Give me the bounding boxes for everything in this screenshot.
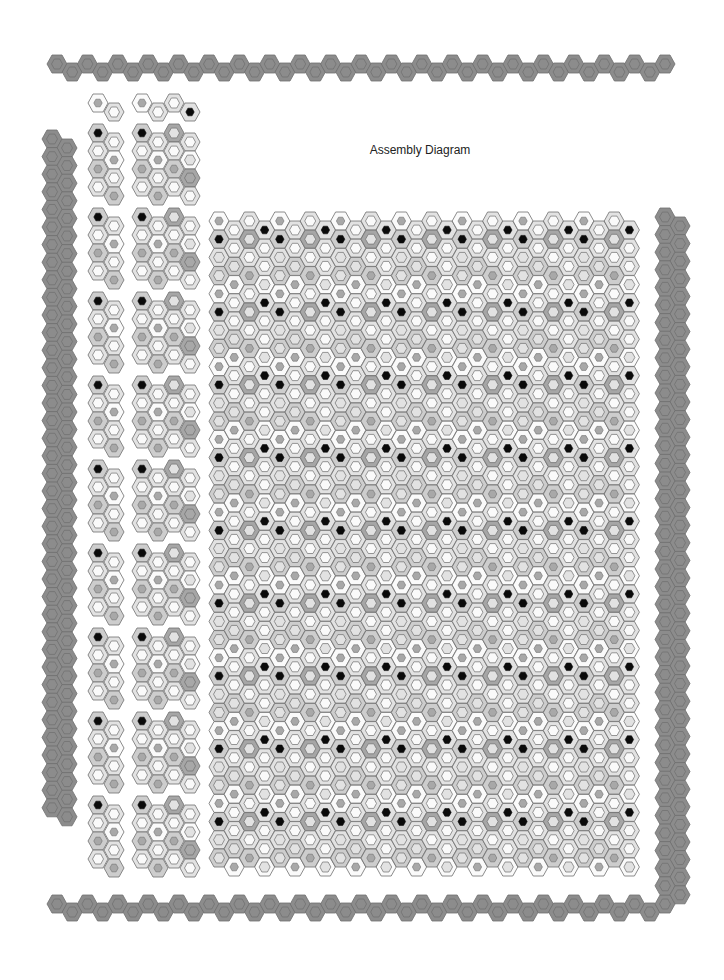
panel-hex (88, 376, 108, 394)
panel-hex (164, 580, 184, 598)
panel-hex (180, 589, 200, 607)
panel-hex (132, 412, 152, 430)
panel-hex (88, 628, 108, 646)
panel-hex (148, 235, 168, 253)
panel-hex (88, 646, 108, 664)
panel-hex (180, 301, 200, 319)
panel-hex (88, 598, 108, 616)
right-hex-strip (655, 208, 690, 904)
panel-hex (164, 310, 184, 328)
panel-hex (88, 160, 108, 178)
panel-hex (132, 514, 152, 532)
panel-hex (180, 103, 200, 121)
panel-hex (88, 430, 108, 448)
panel-hex (148, 805, 168, 823)
panel-hex (132, 628, 152, 646)
panel-hex (104, 823, 124, 841)
panel-hex (180, 469, 200, 487)
panel-hex (132, 262, 152, 280)
panel-hex (132, 832, 152, 850)
panel-hex (180, 217, 200, 235)
panel-hex (164, 226, 184, 244)
panel-hex (148, 859, 168, 877)
panel-hex (104, 355, 124, 373)
panel-hex (164, 430, 184, 448)
panel-hex (132, 712, 152, 730)
panel-hex (88, 262, 108, 280)
panel-hex (164, 628, 184, 646)
panel-hex (148, 523, 168, 541)
panel-hex (180, 151, 200, 169)
panel-hex (88, 346, 108, 364)
panel-hex (180, 637, 200, 655)
panel-hex (148, 589, 168, 607)
panel-hex (180, 187, 200, 205)
panel-hex (88, 226, 108, 244)
panel-hex (164, 562, 184, 580)
panel-hex (104, 469, 124, 487)
panel-hex (132, 208, 152, 226)
panel-hex (104, 421, 124, 439)
panel-hex (132, 142, 152, 160)
panel-hex (104, 523, 124, 541)
panel-hex (164, 682, 184, 700)
panel-hex (180, 253, 200, 271)
panel-hex (180, 505, 200, 523)
panel-hex (164, 712, 184, 730)
panel-hex (132, 94, 152, 112)
panel-hex (104, 673, 124, 691)
panel-hex (132, 328, 152, 346)
panel-hex (180, 721, 200, 739)
panel-hex (148, 271, 168, 289)
panel-hex (180, 607, 200, 625)
panel-hex (132, 748, 152, 766)
panel-hex (164, 478, 184, 496)
panel-hex (180, 691, 200, 709)
panel-hex (104, 103, 124, 121)
panel-hex (104, 721, 124, 739)
panel-hex (180, 133, 200, 151)
panel-hex (148, 385, 168, 403)
panel-hex (180, 271, 200, 289)
panel-hex (104, 133, 124, 151)
panel-hex (88, 208, 108, 226)
panel-hex (132, 178, 152, 196)
panel-hex (164, 292, 184, 310)
panel-hex (88, 514, 108, 532)
panel-hex (132, 376, 152, 394)
panel-hex (148, 469, 168, 487)
panel-hex (88, 478, 108, 496)
panel-hex (132, 598, 152, 616)
bottom-hex-strip (47, 895, 675, 921)
panel-hex (104, 637, 124, 655)
panel-hex (88, 814, 108, 832)
panel-hex (164, 262, 184, 280)
panel-hex (88, 310, 108, 328)
panel-hex (148, 355, 168, 373)
panel-hex (132, 460, 152, 478)
panel-hex (148, 673, 168, 691)
panel-hex (132, 496, 152, 514)
panel-hex (88, 580, 108, 598)
panel-hex (132, 682, 152, 700)
panel-hex (148, 301, 168, 319)
panel-hex (164, 346, 184, 364)
panel-hex (88, 832, 108, 850)
panel-hex (164, 730, 184, 748)
panel-hex (88, 496, 108, 514)
panel-hex (148, 187, 168, 205)
panel-hex (88, 244, 108, 262)
panel-hex (164, 664, 184, 682)
panel-hex (180, 169, 200, 187)
panel-hex (132, 394, 152, 412)
panel-hex (180, 337, 200, 355)
panel-hex (180, 319, 200, 337)
panel-hex (132, 562, 152, 580)
panel-hex (148, 217, 168, 235)
panel-hex (164, 766, 184, 784)
panel-hex (104, 439, 124, 457)
panel-hex (164, 160, 184, 178)
panel-hex (180, 403, 200, 421)
panel-hex (104, 337, 124, 355)
panel-hex (104, 319, 124, 337)
